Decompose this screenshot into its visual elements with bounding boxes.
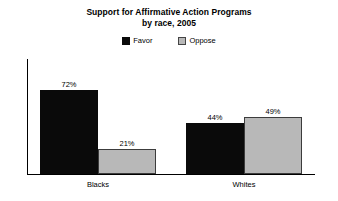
black-swatch-icon (122, 37, 130, 45)
x-axis-category-labels: Blacks Whites (27, 180, 315, 192)
chart-subtitle: by race, 2005 (0, 18, 338, 29)
gray-swatch-icon (178, 37, 186, 45)
legend-item-favor: Favor (122, 36, 152, 45)
bar-chart-figure: Support for Affirmative Action Programs … (0, 0, 338, 201)
legend-label-oppose: Oppose (189, 36, 215, 45)
legend-item-oppose: Oppose (178, 36, 215, 45)
bar-whites-oppose: 49% (244, 117, 302, 174)
category-label-blacks: Blacks (87, 180, 109, 190)
x-axis-line (27, 174, 315, 175)
bar-value-label: 44% (207, 113, 222, 122)
bar-value-label: 21% (119, 139, 134, 148)
bar-whites-favor: 44% (186, 123, 244, 174)
chart-legend: Favor Oppose (0, 36, 338, 45)
chart-title-line1: Support for Affirmative Action Programs (86, 7, 251, 17)
plot-area: 72% 21% 44% 49% (27, 57, 315, 175)
bar-blacks-favor: 72% (40, 90, 98, 174)
category-label-whites: Whites (233, 180, 256, 190)
legend-label-favor: Favor (133, 36, 152, 45)
bar-blacks-oppose: 21% (98, 149, 156, 174)
bars-layer: 72% 21% 44% 49% (27, 57, 315, 174)
chart-title: Support for Affirmative Action Programs … (0, 7, 338, 29)
bar-value-label: 49% (265, 107, 280, 116)
bar-value-label: 72% (61, 80, 76, 89)
